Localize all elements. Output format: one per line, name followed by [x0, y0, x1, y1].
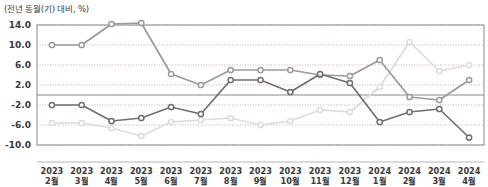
data-point-marker: [258, 77, 263, 82]
xtick-label-group: 20232월20233월20234월20235월20236월20237월2023…: [41, 166, 481, 186]
data-point-marker: [139, 115, 144, 120]
ytick-label: -6.0: [11, 120, 31, 130]
ytick-label: 6.0: [15, 60, 31, 70]
data-point-marker: [288, 89, 293, 94]
xtick-label-month: 12월: [340, 176, 359, 186]
data-point-marker: [467, 62, 472, 67]
data-point-marker: [79, 42, 84, 47]
xtick-label-year: 2023: [339, 166, 362, 176]
data-point-marker: [109, 118, 114, 123]
data-point-marker: [318, 107, 323, 112]
data-point-marker: [318, 71, 323, 76]
data-point-marker: [49, 42, 54, 47]
data-point-marker: [347, 73, 352, 78]
xtick-label-month: 11월: [310, 176, 329, 186]
data-point-marker: [49, 102, 54, 107]
series-line: [52, 23, 469, 100]
data-point-marker: [437, 97, 442, 102]
ytick-label: 10.0: [9, 40, 31, 50]
data-point-marker: [347, 109, 352, 114]
xtick-label-year: 2023: [279, 166, 302, 176]
xtick-label-month: 9월: [254, 176, 268, 186]
xtick-label-year: 2023: [249, 166, 272, 176]
xtick-label-month: 4월: [462, 176, 476, 186]
data-point-marker: [198, 117, 203, 122]
xtick-label-month: 2월: [403, 176, 417, 186]
xtick-label-month: 3월: [432, 176, 446, 186]
xtick-label-month: 5월: [134, 176, 148, 186]
data-point-marker: [169, 119, 174, 124]
data-point-marker: [377, 57, 382, 62]
data-point-marker: [139, 133, 144, 138]
series-group: [49, 20, 471, 140]
data-point-marker: [169, 104, 174, 109]
plot-frame: [37, 25, 484, 162]
data-point-marker: [49, 120, 54, 125]
xtick-label-year: 2024: [458, 166, 481, 176]
ytick-label: 14.0: [9, 20, 31, 30]
data-point-marker: [377, 119, 382, 124]
data-point-marker: [258, 122, 263, 127]
ytick-label: 2.0: [15, 80, 31, 90]
data-point-marker: [407, 94, 412, 99]
xtick-label-year: 2023: [70, 166, 93, 176]
series-series-medium-gray: [49, 20, 471, 102]
xtick-label-month: 6월: [164, 176, 178, 186]
xtick-label-year: 2024: [398, 166, 421, 176]
data-point-marker: [437, 68, 442, 73]
data-point-marker: [139, 20, 144, 25]
data-point-marker: [258, 67, 263, 72]
data-point-marker: [228, 77, 233, 82]
chart-container: (전년 동월(기) 대비, %) 14.010.06.02.0-2.0-6.0-…: [0, 0, 488, 187]
data-point-marker: [407, 109, 412, 114]
data-point-marker: [377, 84, 382, 89]
xtick-label-month: 1월: [373, 176, 387, 186]
data-point-marker: [169, 71, 174, 76]
xtick-label-year: 2024: [368, 166, 391, 176]
xtick-label-year: 2023: [100, 166, 123, 176]
data-point-marker: [347, 80, 352, 85]
xtick-label-month: 4월: [105, 176, 119, 186]
xtick-label-year: 2023: [130, 166, 153, 176]
xtick-label-month: 3월: [75, 176, 89, 186]
data-point-marker: [228, 115, 233, 120]
xtick-label-year: 2023: [41, 166, 64, 176]
xtick-label-year: 2024: [428, 166, 451, 176]
ytick-label-group: 14.010.06.02.0-2.0-6.0-10.0: [5, 20, 31, 150]
data-point-marker: [109, 21, 114, 26]
line-chart-plot: 14.010.06.02.0-2.0-6.0-10.0 20232월20233월…: [0, 0, 488, 187]
data-point-marker: [79, 120, 84, 125]
xtick-label-year: 2023: [309, 166, 332, 176]
data-point-marker: [198, 111, 203, 116]
xtick-label-month: 2월: [45, 176, 59, 186]
data-point-marker: [288, 118, 293, 123]
data-point-marker: [198, 82, 203, 87]
data-point-marker: [228, 67, 233, 72]
data-point-marker: [467, 77, 472, 82]
xtick-label-month: 10월: [281, 176, 300, 186]
xtick-label-year: 2023: [160, 166, 183, 176]
data-point-marker: [407, 39, 412, 44]
data-point-marker: [109, 125, 114, 130]
data-point-marker: [288, 67, 293, 72]
xtick-label-month: 8월: [224, 176, 238, 186]
data-point-marker: [79, 102, 84, 107]
data-point-marker: [467, 135, 472, 140]
xtick-label-year: 2023: [219, 166, 242, 176]
xtick-label-month: 7월: [194, 176, 208, 186]
ytick-label: -10.0: [5, 140, 31, 150]
ytick-label: -2.0: [11, 100, 31, 110]
xtick-label-year: 2023: [190, 166, 213, 176]
data-point-marker: [437, 106, 442, 111]
